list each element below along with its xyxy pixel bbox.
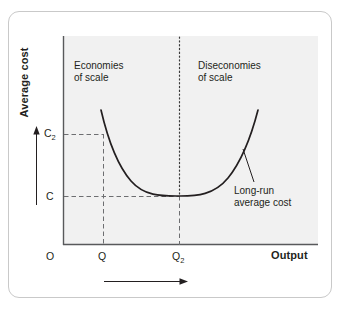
lrac-curve-label-line1: Long-run (234, 185, 291, 197)
x-tick-label-q2-subscript: 2 (180, 256, 184, 265)
economies-of-scale-label: Economies of scale (74, 60, 123, 84)
lrac-figure: Average cost Output Economies of scale D… (0, 0, 344, 315)
y-axis-increase-arrow (33, 126, 39, 205)
origin-label: O (46, 250, 54, 262)
y-tick-label-c2-subscript: 2 (52, 133, 56, 142)
y-tick-label-c: C (46, 190, 54, 202)
y-tick-label-c2-base: C (44, 127, 52, 139)
lrac-curve-label: Long-run average cost (234, 185, 291, 209)
x-axis-increase-arrow (104, 278, 188, 284)
diseconomies-of-scale-label-line1: Diseconomies (198, 60, 261, 72)
diseconomies-of-scale-label-line2: of scale (198, 72, 261, 84)
y-tick-label-c2: C2 (44, 127, 56, 143)
x-tick-label-q: Q (98, 250, 106, 262)
lrac-curve-label-line2: average cost (234, 197, 291, 209)
y-axis-title: Average cost (18, 37, 31, 127)
economies-of-scale-label-line2: of scale (74, 72, 123, 84)
x-axis-title: Output (271, 249, 308, 262)
plot-canvas (0, 0, 344, 315)
x-tick-label-q2: Q2 (172, 250, 184, 266)
diseconomies-of-scale-label: Diseconomies of scale (198, 60, 261, 84)
x-tick-label-q2-base: Q (172, 250, 180, 262)
economies-of-scale-label-line1: Economies (74, 60, 123, 72)
